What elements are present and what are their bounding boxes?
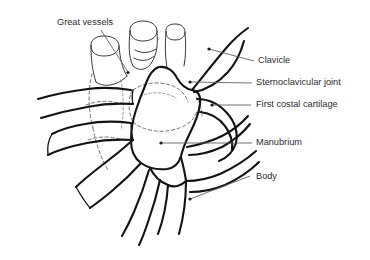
leader-dot-great-vessels bbox=[126, 71, 129, 74]
label-clavicle: Clavicle bbox=[258, 55, 290, 65]
great-vessels-group bbox=[91, 21, 186, 85]
label-body: Body bbox=[256, 171, 277, 181]
great-vessel-right bbox=[165, 24, 185, 68]
leader-lines-group bbox=[101, 30, 254, 201]
second-costal-cartilage-right bbox=[187, 116, 250, 155]
leader-dot-sternoclavicular-joint bbox=[188, 80, 191, 83]
leader-dot-manubrium bbox=[159, 141, 162, 144]
label-first-costal-cartilage: First costal cartilage bbox=[256, 99, 338, 109]
leader-great-vessels bbox=[101, 30, 130, 74]
great-vessel-left bbox=[91, 36, 127, 85]
figure-container: Great vessels Clavicle Sternoclavicular … bbox=[0, 0, 370, 260]
label-sternoclavicular-joint: Sternoclavicular joint bbox=[256, 77, 341, 87]
anatomy-figure: Great vessels Clavicle Sternoclavicular … bbox=[0, 0, 370, 260]
label-great-vessels: Great vessels bbox=[57, 17, 114, 27]
third-costal-cartilage-right bbox=[186, 151, 259, 192]
leader-dot-clavicle bbox=[207, 47, 210, 50]
clavicle-left bbox=[38, 88, 133, 118]
label-manubrium: Manubrium bbox=[256, 137, 302, 147]
leader-dot-first-costal-cartilage bbox=[210, 103, 213, 106]
great-vessel-middle bbox=[129, 21, 157, 69]
lower-rib-left bbox=[122, 170, 160, 245]
leader-dot-body bbox=[188, 197, 191, 200]
leader-clavicle bbox=[207, 47, 254, 61]
